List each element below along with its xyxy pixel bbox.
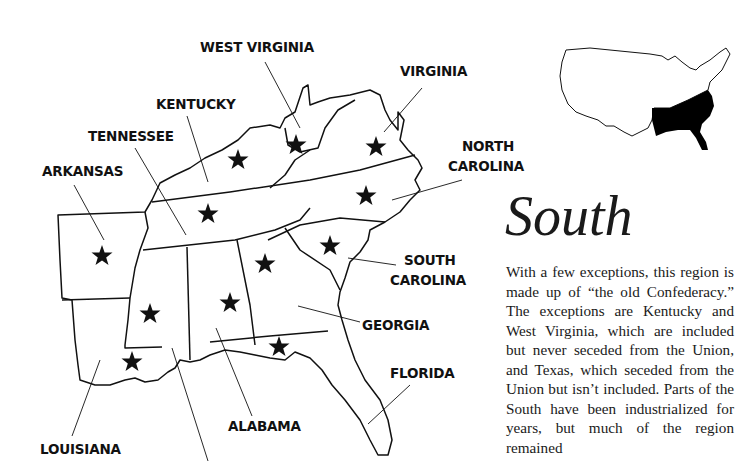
star-tennessee <box>198 203 219 223</box>
star-florida-capital <box>269 336 290 356</box>
label-north-carolina-2: CAROLINA <box>448 157 524 176</box>
leader-west-virginia <box>265 62 300 128</box>
star-virginia <box>366 136 387 156</box>
star-north-carolina <box>356 185 377 205</box>
star-georgia <box>255 253 276 273</box>
label-alabama: ALABAMA <box>228 417 301 436</box>
label-louisiana: LOUISIANA <box>40 440 121 459</box>
label-south-carolina-1: SOUTH <box>404 251 456 270</box>
border-ms-al <box>187 247 190 360</box>
label-north-carolina-1: NORTH <box>462 137 514 156</box>
leader-georgia <box>298 306 360 322</box>
border-ga-sc <box>285 228 340 290</box>
label-virginia: VIRGINIA <box>400 62 467 81</box>
leader-tennessee <box>135 148 186 235</box>
star-arkansas <box>92 245 113 265</box>
region-description: With a few exceptions, this region is ma… <box>506 262 734 457</box>
star-alabama <box>220 292 241 312</box>
label-georgia: GEORGIA <box>362 316 429 335</box>
us-inset-map <box>550 20 741 160</box>
border-al-ga <box>237 240 255 345</box>
leader-kentucky <box>187 116 208 182</box>
label-florida: FLORIDA <box>390 364 455 383</box>
border-ga-fl <box>210 331 328 342</box>
leader-north-carolina <box>392 180 462 200</box>
description-paragraph: With a few exceptions, this region is ma… <box>506 262 734 457</box>
leader-arkansas <box>74 185 104 240</box>
label-west-virginia: WEST VIRGINIA <box>200 38 314 57</box>
border-ar-la <box>62 298 130 300</box>
label-arkansas: ARKANSAS <box>42 162 123 181</box>
leader-florida <box>368 385 410 424</box>
label-kentucky: KENTUCKY <box>156 95 236 114</box>
star-kentucky <box>228 149 249 169</box>
border-tn-north <box>152 155 415 202</box>
star-louisiana <box>122 351 143 371</box>
star-south-carolina <box>320 235 341 255</box>
border-ar-east <box>130 212 148 298</box>
label-south-carolina-2: CAROLINA <box>390 271 466 290</box>
leader-louisiana <box>72 360 100 436</box>
star-mississippi <box>140 303 161 323</box>
leader-alabama <box>216 328 252 416</box>
south-region-fill <box>652 90 714 150</box>
leader-mississippi <box>172 348 208 461</box>
label-tennessee: TENNESSEE <box>88 127 174 146</box>
region-title: South <box>505 186 633 246</box>
leader-south-carolina <box>348 258 396 265</box>
